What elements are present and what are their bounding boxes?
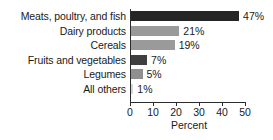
bar-row: 5% bbox=[131, 67, 273, 82]
x-axis-tick-label: 30 bbox=[193, 106, 205, 118]
category-label: Fruits and vegetables bbox=[0, 53, 126, 68]
bar-value-label: 5% bbox=[147, 69, 162, 80]
bar bbox=[131, 11, 239, 21]
bars-layer: 47% 21% 19% 7% 5% 1% bbox=[131, 9, 273, 96]
bar-row: 7% bbox=[131, 53, 273, 68]
x-axis-title: Percent bbox=[131, 119, 247, 131]
bar-value-label: 21% bbox=[183, 26, 204, 37]
category-label: Cereals bbox=[0, 38, 126, 53]
x-axis-tick-label: 0 bbox=[127, 106, 133, 118]
bar-row: 21% bbox=[131, 24, 273, 39]
bar bbox=[131, 69, 143, 79]
x-axis-line bbox=[130, 102, 246, 103]
category-axis-labels: Meats, poultry, and fish Dairy products … bbox=[0, 9, 126, 96]
bar bbox=[131, 26, 179, 36]
bar-value-label: 7% bbox=[151, 55, 166, 66]
bar-value-label: 47% bbox=[243, 11, 264, 22]
bar-value-label: 19% bbox=[179, 40, 200, 51]
bar bbox=[131, 55, 147, 65]
bar bbox=[131, 40, 175, 50]
bar bbox=[131, 84, 133, 94]
x-axis-tick-label: 50 bbox=[239, 106, 251, 118]
bar-row: 1% bbox=[131, 82, 273, 97]
x-axis-tick-label: 40 bbox=[216, 106, 228, 118]
category-label: Legumes bbox=[0, 67, 126, 82]
category-label: Meats, poultry, and fish bbox=[0, 9, 126, 24]
y-axis-line bbox=[130, 9, 131, 102]
x-axis-tick-label: 20 bbox=[170, 106, 182, 118]
bar-row: 47% bbox=[131, 9, 273, 24]
category-label: Dairy products bbox=[0, 24, 126, 39]
bar-row: 19% bbox=[131, 38, 273, 53]
plot-area: Meats, poultry, and fish Dairy products … bbox=[0, 0, 273, 140]
category-label: All others bbox=[0, 82, 126, 97]
bar-value-label: 1% bbox=[137, 84, 152, 95]
x-axis-tick-label: 10 bbox=[147, 106, 159, 118]
bar-chart: Meats, poultry, and fish Dairy products … bbox=[0, 0, 273, 140]
